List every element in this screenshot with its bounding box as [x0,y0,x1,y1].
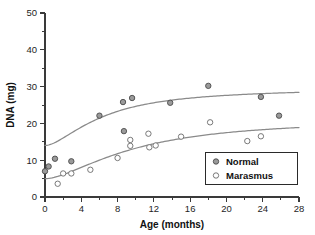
data-point-normal [69,159,74,164]
x-tick-label: 12 [149,203,160,214]
x-tick-label: 4 [79,203,84,214]
y-tick-label: 30 [26,81,37,92]
y-tick-label: 20 [26,118,37,129]
y-tick-label: 10 [26,155,37,166]
legend-marker-marasmus [213,173,218,178]
x-tick-label: 24 [257,203,268,214]
data-point-marasmus [153,143,158,148]
data-point-normal [206,83,211,88]
chart-figure: 01020304050 0481216202428 NormalMarasmus… [0,0,315,235]
y-tick-label: 50 [26,7,37,18]
data-point-normal [258,94,263,99]
x-tick-label: 16 [185,203,196,214]
data-point-marasmus [146,131,151,136]
data-point-marasmus [115,155,120,160]
y-tick-label: 0 [32,191,37,202]
chart-legend: NormalMarasmus [205,152,297,184]
x-tick-label: 28 [294,203,305,214]
data-point-normal [276,113,281,118]
x-tick-label: 8 [115,203,120,214]
plot-background [0,0,315,235]
data-point-normal [167,100,172,105]
data-point-marasmus [258,134,263,139]
y-axis-title: DNA (mg) [5,82,16,128]
data-point-marasmus [88,167,93,172]
data-point-normal [120,99,125,104]
data-point-normal [42,169,47,174]
data-point-normal [121,128,126,133]
data-point-normal [129,95,134,100]
data-point-marasmus [207,120,212,125]
data-point-marasmus [178,134,183,139]
y-tick-label: 40 [26,44,37,55]
legend-label-marasmus: Marasmus [226,170,273,181]
data-point-marasmus [245,138,250,143]
data-point-marasmus [60,171,65,176]
data-point-marasmus [128,143,133,148]
legend-label-normal: Normal [226,156,259,167]
data-point-marasmus [69,171,74,176]
data-point-normal [46,164,51,169]
x-tick-label: 0 [42,203,47,214]
data-point-marasmus [147,145,152,150]
data-point-normal [52,156,57,161]
legend-marker-normal [213,159,218,164]
data-point-marasmus [128,137,133,142]
x-tick-label: 20 [221,203,232,214]
dna-age-scatter-plot: 01020304050 0481216202428 NormalMarasmus… [0,0,315,235]
data-point-marasmus [55,181,60,186]
data-point-normal [97,113,102,118]
x-axis-title: Age (months) [140,219,204,230]
